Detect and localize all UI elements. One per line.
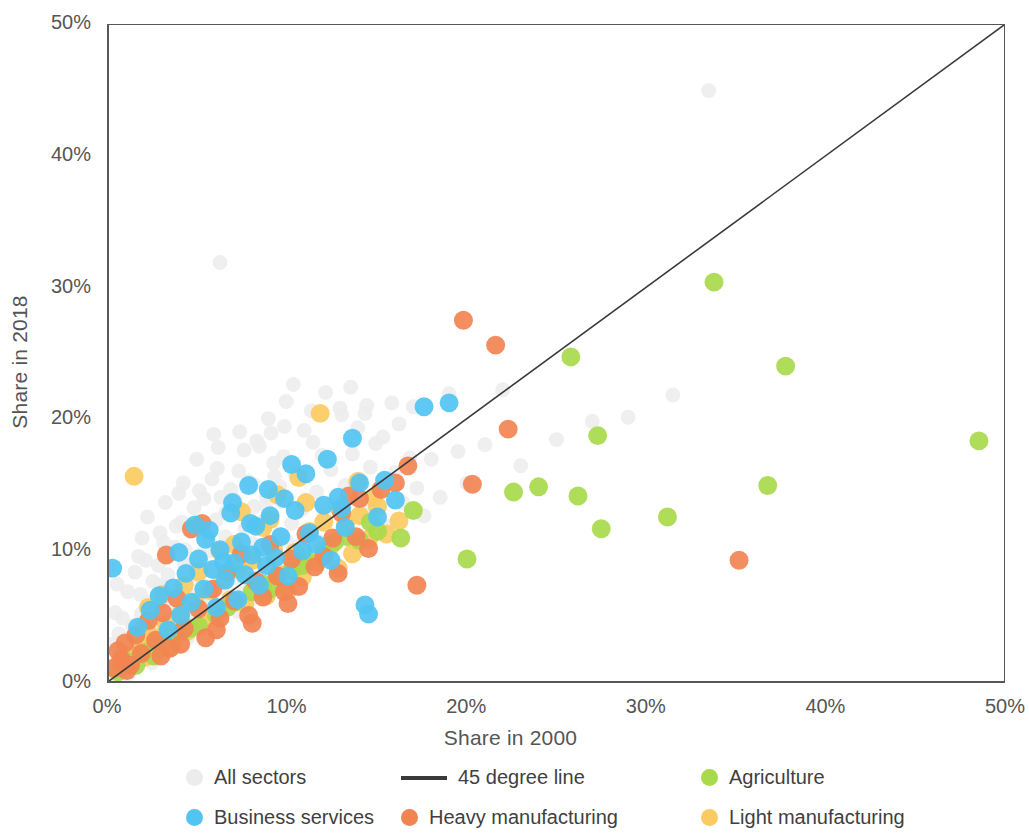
data-point [185,515,204,534]
data-point [701,83,716,98]
data-point [206,427,221,442]
x-tick-label: 30% [606,695,686,718]
legend-item-label: Business services [214,806,374,829]
data-point [969,431,988,450]
data-point [549,432,564,447]
legend-item-light-manufacturing[interactable]: Light manufacturing [701,806,905,829]
data-point [282,455,301,474]
data-point [758,476,777,495]
data-point [275,489,294,508]
data-point [592,519,611,538]
data-point [135,531,150,546]
plot-area [107,24,1005,683]
data-point [495,382,510,397]
data-point [561,347,580,366]
data-point [407,576,426,595]
data-point [231,464,246,479]
data-point [128,618,147,637]
data-point [169,519,184,534]
legend-item-label: Heavy manufacturing [429,806,618,829]
data-point [204,471,219,486]
data-point [110,576,125,591]
y-tick-label: 10% [11,538,91,561]
data-point [343,380,358,395]
x-tick-label: 40% [785,695,865,718]
data-point [216,571,235,590]
data-point [279,567,298,586]
data-point [261,506,280,525]
data-point [415,397,434,416]
forty-five-degree-line [109,25,1004,681]
legend-item-business-services[interactable]: Business services [186,806,374,829]
data-point [486,336,505,355]
data-point [207,620,226,639]
data-point [151,647,170,666]
data-point [171,635,190,654]
data-point [363,460,378,475]
data-point [776,357,795,376]
x-tick-label: 10% [247,695,327,718]
data-point [241,514,260,533]
legend-item-agriculture[interactable]: Agriculture [701,766,825,789]
data-point [336,518,355,537]
y-tick-label: 40% [11,143,91,166]
data-point [189,452,204,467]
data-point [127,565,142,580]
data-point [321,551,340,570]
data-point [192,483,207,498]
data-points-layer [109,25,1004,681]
data-point [318,385,333,400]
y-tick-label: 0% [11,670,91,693]
x-tick-label: 50% [965,695,1029,718]
data-point [115,611,130,626]
data-point [243,614,262,633]
data-point [588,426,607,445]
y-tick-label: 20% [11,406,91,429]
legend-item-heavy-manufacturing[interactable]: Heavy manufacturing [401,806,618,829]
data-point [232,424,247,439]
data-point [332,401,347,416]
data-point [297,423,312,438]
data-point [368,508,387,527]
data-point [223,493,242,512]
data-point [424,452,439,467]
data-point [665,388,680,403]
data-point [109,559,122,578]
legend-line-swatch [401,776,447,780]
data-point [187,500,202,515]
data-point [177,564,196,583]
data-point [213,255,228,270]
data-point [259,480,278,499]
data-point [440,393,459,412]
data-point [318,450,337,469]
legend-circle-swatch [701,769,718,786]
legend-item-all-sectors[interactable]: All sectors [186,766,306,789]
legend-item-label: 45 degree line [458,766,585,789]
data-point [454,311,473,330]
data-point [357,406,372,421]
data-point [306,435,321,450]
data-point [169,543,188,562]
data-point [171,486,186,501]
legend-item-45-degree-line[interactable]: 45 degree line [401,766,585,789]
data-point [392,416,407,431]
data-point [158,495,173,510]
x-tick-label: 20% [426,695,506,718]
data-point [153,525,168,540]
data-point [140,510,155,525]
data-point [477,437,492,452]
data-point [249,433,264,448]
data-point [250,576,269,595]
data-point [391,529,410,548]
data-point [730,551,749,570]
data-point [279,394,294,409]
data-point [621,410,636,425]
legend-circle-swatch [186,809,203,826]
data-point [194,580,213,599]
data-point [359,605,378,624]
data-point [529,477,548,496]
data-point [458,550,477,569]
data-point [499,420,518,439]
data-point [286,377,301,392]
x-tick-label: 0% [67,695,147,718]
